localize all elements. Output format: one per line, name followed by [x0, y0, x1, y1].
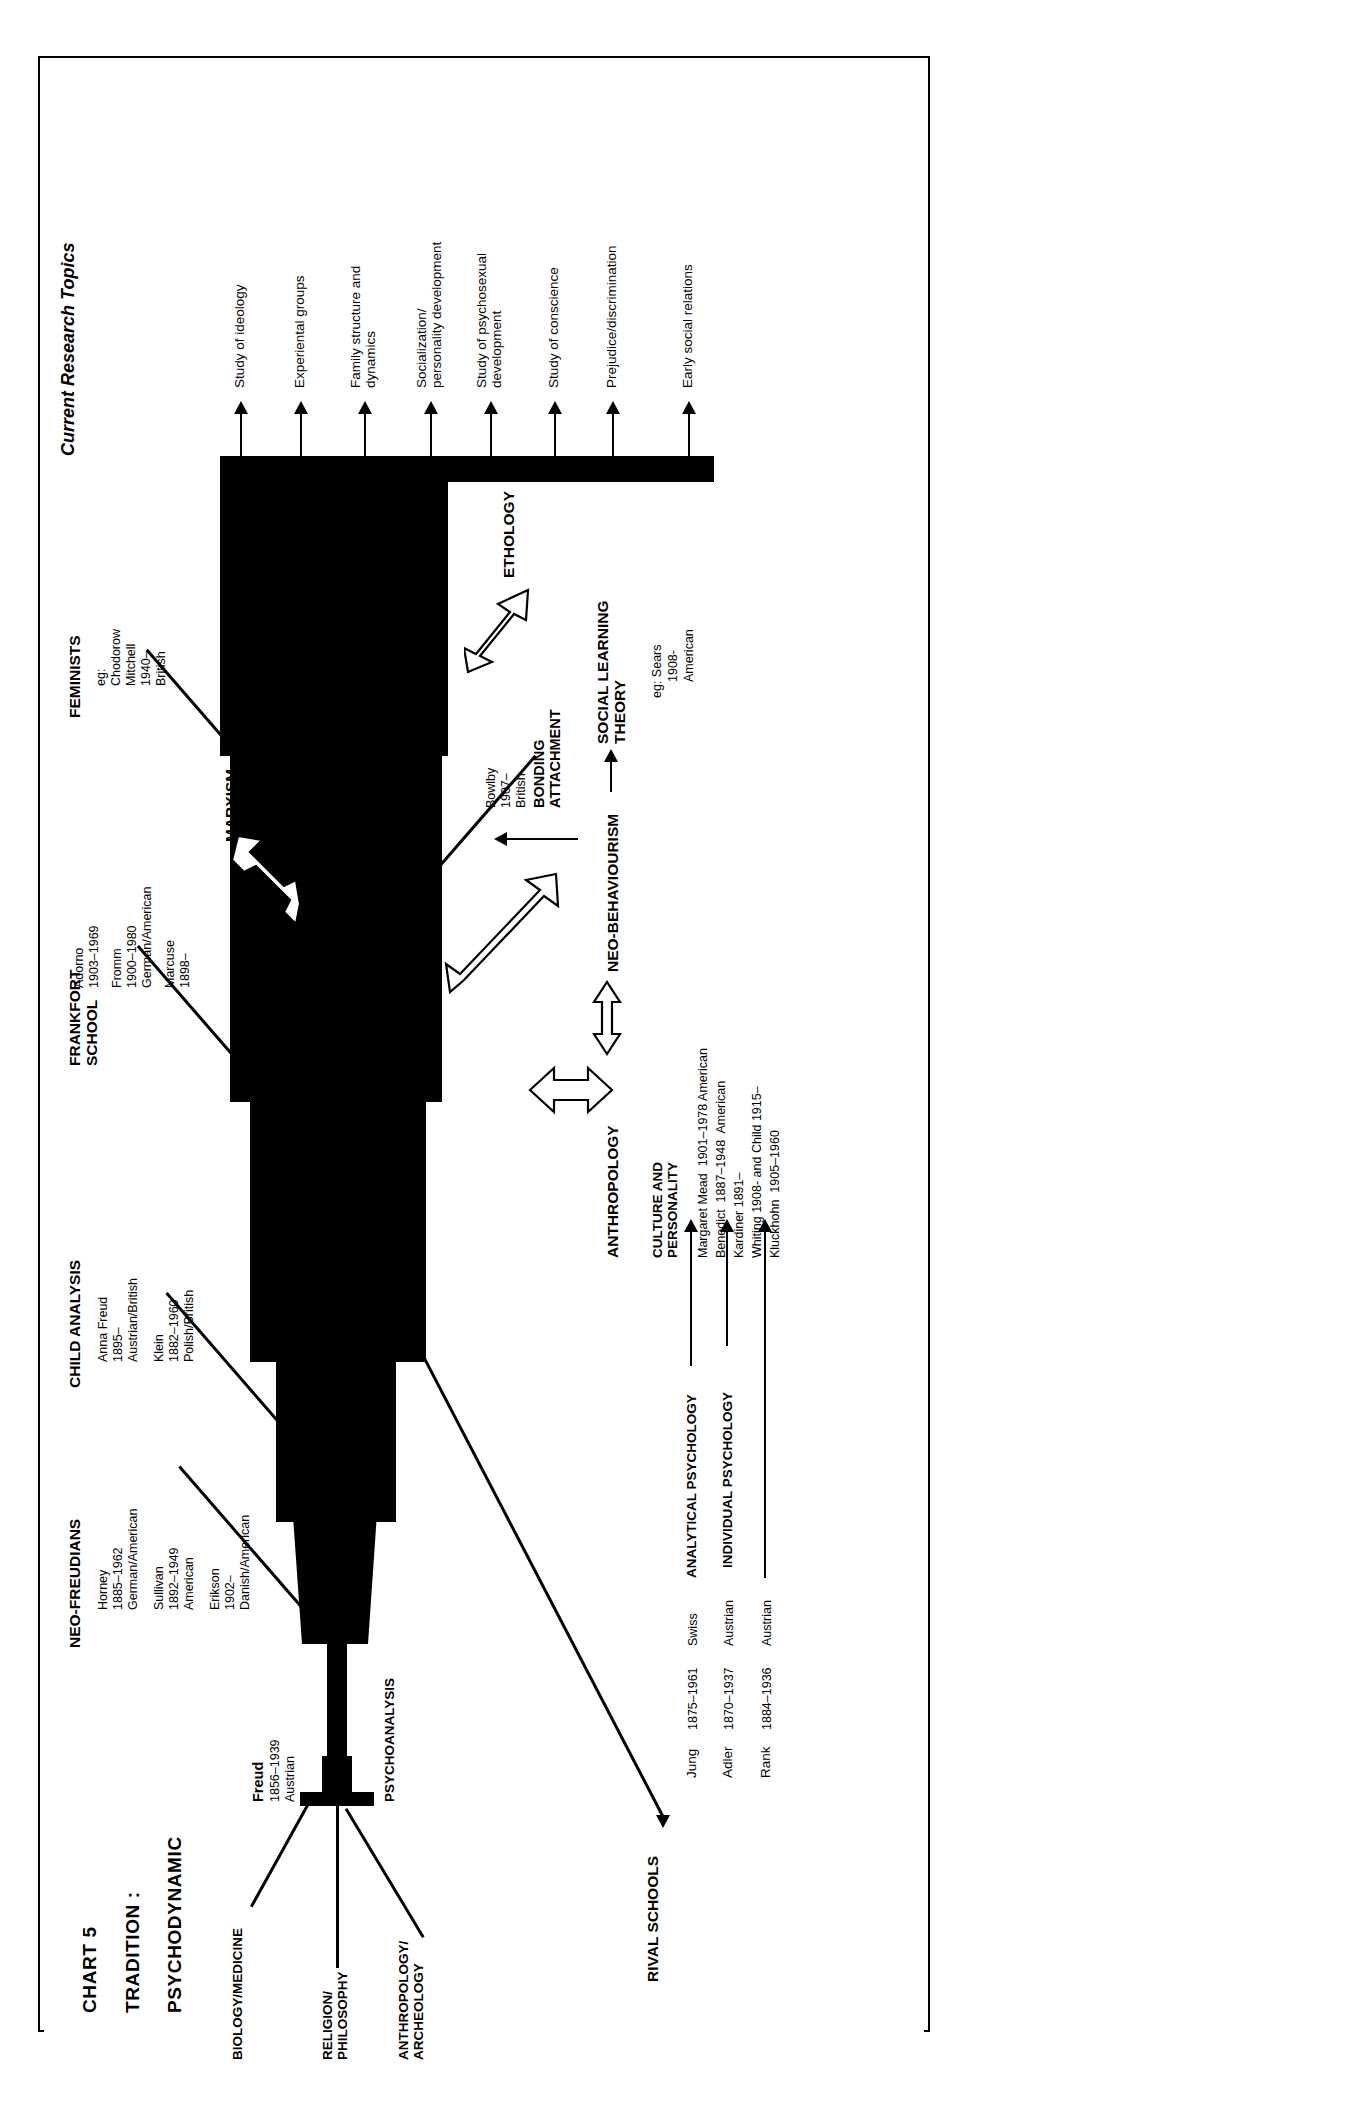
ethology-double-arrow — [464, 578, 534, 678]
social-learning-person-0: eg: Sears — [650, 644, 664, 698]
person-name-mitchell: Mitchell — [124, 644, 138, 686]
research-topic-1: Experiental groups — [292, 275, 307, 388]
research-arrow-line-2 — [364, 412, 366, 456]
rival-arrow-head-adler — [720, 1219, 734, 1232]
person-name-klein: Klein — [152, 1334, 166, 1362]
branch-heading-bonding: BONDING ATTACHMENT — [531, 709, 563, 808]
person-dates-klein: 1882–1960 — [167, 1299, 181, 1362]
person-nat-klein: Polish/British — [182, 1290, 196, 1362]
rival-name-rank: Rank — [758, 1746, 773, 1778]
rival-nat-rank: Austrian — [760, 1600, 774, 1646]
person-dates-adorno: 1903–1969 — [87, 925, 101, 988]
person-dates-fromm: 1900–1980 — [125, 925, 139, 988]
rival-arrow-line-adler — [726, 1230, 728, 1346]
person-dates-anna-freud: 1895– — [111, 1327, 125, 1362]
root-line-biology — [250, 1803, 310, 1908]
research-arrow-head-3 — [424, 401, 438, 414]
research-arrow-head-0 — [234, 401, 248, 414]
research-topic-5: Study of conscience — [546, 267, 561, 388]
trunk-taper-bottom — [368, 482, 448, 1644]
social-learning-person-2: American — [682, 629, 696, 682]
branch-heading-feminists: FEMINISTS — [66, 635, 83, 718]
feminists-eg: eg: — [94, 669, 108, 686]
person-name-anna-freud: Anna Freud — [96, 1297, 110, 1362]
rival-arrow-head-jung — [684, 1219, 698, 1232]
rival-schools-heading: RIVAL SCHOOLS — [644, 1856, 661, 1982]
culture-person-3: Whiting 1908- and Child 1915– — [750, 1086, 764, 1258]
rival-nat-jung: Swiss — [686, 1613, 700, 1646]
root-label-anthropology: ANTHROPOLOGY/ ARCHEOLOGY — [396, 1941, 426, 2060]
external-link-ethology: ETHOLOGY — [500, 491, 517, 578]
culture-personality-heading: CULTURE AND PERSONALITY — [650, 1162, 680, 1258]
person-name-marcuse: Marcuse — [163, 940, 177, 988]
person-nat-sullivan: American — [182, 1557, 196, 1610]
anthropology-neobehaviourism-double-arrow — [592, 980, 622, 1056]
founder-dates: 1856–1939 — [268, 1739, 282, 1802]
culture-person-2: Kardiner 1891– — [732, 1173, 746, 1258]
person-dates-bowlby: 1907– — [499, 773, 513, 808]
research-arrow-line-7 — [688, 412, 690, 456]
trunk-main — [302, 1522, 368, 1644]
research-arrow-head-6 — [606, 401, 620, 414]
lower-heading-anthropology: ANTHROPOLOGY — [604, 1125, 621, 1258]
neo-behaviourism-to-social-learning-line — [610, 760, 612, 792]
culture-person-0: Margaret Mead 1901–1978 American — [696, 1048, 710, 1258]
person-name-sullivan: Sullivan — [152, 1566, 166, 1610]
title-value: PSYCHODYNAMIC — [164, 1836, 185, 2013]
founder-school: PSYCHOANALYSIS — [382, 1678, 397, 1802]
research-arrow-line-5 — [554, 412, 556, 456]
research-arrow-head-4 — [484, 401, 498, 414]
culture-person-4: Kluckhohn 1905–1960 — [768, 1130, 782, 1258]
person-dates-erikson: 1902– — [223, 1575, 237, 1610]
rival-school-adler: INDIVIDUAL PSYCHOLOGY — [720, 1392, 735, 1568]
research-arrow-line-3 — [430, 412, 432, 456]
research-topic-7: Early social relations — [680, 264, 695, 388]
title-chart-number: CHART 5 — [79, 1926, 100, 2013]
founder-name: Freud — [250, 1762, 266, 1802]
rival-arrow-line-jung — [690, 1230, 692, 1366]
rival-schools-connector-arrowhead — [656, 1815, 670, 1828]
rival-dates-rank: 1884–1936 — [760, 1667, 774, 1730]
research-topic-2: Family structure and dynamics — [348, 266, 378, 388]
lower-heading-social-learning: SOCIAL LEARNING THEORY — [594, 600, 629, 744]
person-dates-mitchell: 1940– — [139, 651, 153, 686]
branch-heading-neo-freudians: NEO-FREUDIANS — [66, 1519, 83, 1648]
root-line-anthropology — [345, 1808, 425, 1938]
title-label: TRADITION : — [122, 1891, 143, 2013]
person-name-chodorow: Chodorow — [109, 629, 123, 686]
root-line-religion — [336, 1792, 339, 1968]
person-nat-erikson: Danish/American — [238, 1515, 252, 1610]
rival-nat-adler: Austrian — [722, 1600, 736, 1646]
anthropology-double-arrow — [528, 1062, 614, 1118]
person-name-erikson: Erikson — [208, 1568, 222, 1610]
rival-arrow-head-rank — [758, 1219, 772, 1232]
social-learning-connector-arrowhead — [494, 832, 507, 846]
branch-heading-child-analysis: CHILD ANALYSIS — [66, 1260, 83, 1388]
person-dates-marcuse: 1898– — [178, 953, 192, 988]
marxism-double-arrow — [230, 832, 300, 928]
rival-name-jung: Jung — [684, 1749, 699, 1778]
person-name-bowlby: Bowlby — [484, 768, 498, 808]
current-research-heading: Current Research Topics — [58, 243, 78, 456]
chart-page: CHART 5 TRADITION : PSYCHODYNAMIC BIOLOG… — [0, 0, 1368, 2106]
canopy-bar — [220, 456, 714, 482]
person-nat-horney: German/American — [126, 1509, 140, 1610]
research-topic-4: Study of psychosexual development — [474, 253, 504, 388]
rival-dates-adler: 1870–1937 — [722, 1667, 736, 1730]
founder-nationality: Austrian — [283, 1756, 297, 1802]
research-arrow-line-1 — [300, 412, 302, 456]
lower-heading-neo-behaviourism: NEO-BEHAVIOURISM — [604, 814, 621, 972]
research-arrow-head-2 — [358, 401, 372, 414]
person-nat-fromm: German/American — [140, 887, 154, 988]
trunk-taper-top — [220, 482, 302, 1644]
social-learning-connector-line — [506, 838, 578, 840]
person-nat-anna-freud: Austrian/British — [126, 1278, 140, 1362]
research-arrow-line-4 — [490, 412, 492, 456]
person-dates-horney: 1885–1962 — [111, 1547, 125, 1610]
research-arrow-head-1 — [294, 401, 308, 414]
research-topic-0: Study of ideology — [232, 284, 247, 388]
chart-canvas: CHART 5 TRADITION : PSYCHODYNAMIC BIOLOG… — [44, 118, 924, 2078]
chart-frame: CHART 5 TRADITION : PSYCHODYNAMIC BIOLOG… — [38, 56, 930, 2032]
trunk-root-cap — [300, 1792, 374, 1806]
research-topic-6: Prejudice/discrimination — [604, 245, 619, 388]
